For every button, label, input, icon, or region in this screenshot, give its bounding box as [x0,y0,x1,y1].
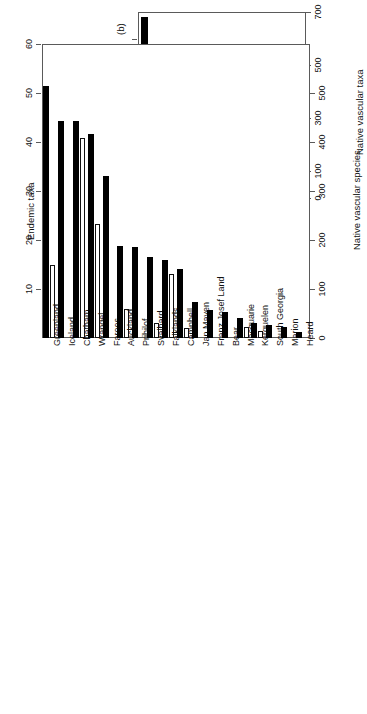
bar-solid [103,176,109,338]
panel_b-right-axis-title: Native vascular species [352,150,362,250]
panel_b-left-tick-label: 10 [25,284,34,294]
panel_b-right-tick-label: 400 [318,134,327,149]
bar-solid [132,247,138,338]
panel_b-left-tick [36,44,41,45]
bar-solid [222,312,228,338]
panel_b-left-tick-label: 40 [25,137,34,147]
panel_b-left-axis-title: Endemic taxa [26,182,36,240]
panel_a-right-tick [306,12,311,13]
panel_b-left-tick [36,240,41,241]
bar-open [80,138,85,338]
bar-solid [162,260,168,338]
bar-solid [58,121,64,338]
panel_a-right-axis-title: Native vascular taxa [355,69,365,155]
bar-solid [192,302,198,338]
bar-solid [296,332,302,338]
panel_b-right-tick [310,191,315,192]
panel_a-left-tick-minor [132,39,137,40]
panel_b-right-tick-label: 100 [318,281,327,296]
panel_b-left-tick-label: 50 [25,88,34,98]
panel_a-right-tick-label: 700 [314,4,323,19]
panel_b-right-tick [310,240,315,241]
panel_b-right-tick [310,93,315,94]
panel_b-right-tick-label: 300 [318,183,327,198]
bar-solid [147,257,153,338]
panel_b-right-tick [310,142,315,143]
panel_b-right-tick [310,289,315,290]
panel_b-left-tick [36,191,41,192]
panel_a-right-tick-label: 500 [314,58,323,73]
panel_b-left-tick-label: 60 [25,39,34,49]
bar-solid [177,269,183,338]
bar-solid [43,86,49,338]
category-label: Heard [306,321,315,346]
panel_b-left-tick [36,93,41,94]
bar-solid [281,327,287,338]
panel_b-panel-label: (b) [116,23,126,35]
bar-solid [88,134,94,338]
panel_a-right-tick-label: 100 [314,164,323,179]
bar-solid [117,246,123,338]
panel_b-left-tick [36,142,41,143]
bar-solid [251,323,257,338]
panel_b-right-tick-label: 200 [318,232,327,247]
panel_b-left-tick [36,289,41,290]
panel_a-right-tick-label: 300 [314,111,323,126]
panel_b-right-tick-label: 500 [318,85,327,100]
bar-solid [73,121,79,338]
bar-solid [266,325,272,338]
panel-b-endemic-taxa-chart: 1020304050600100200300400500Endemic taxa… [0,258,367,714]
bar-solid [237,318,243,338]
bar-solid [207,310,213,338]
panel_b-right-tick-label: 0 [318,335,327,340]
